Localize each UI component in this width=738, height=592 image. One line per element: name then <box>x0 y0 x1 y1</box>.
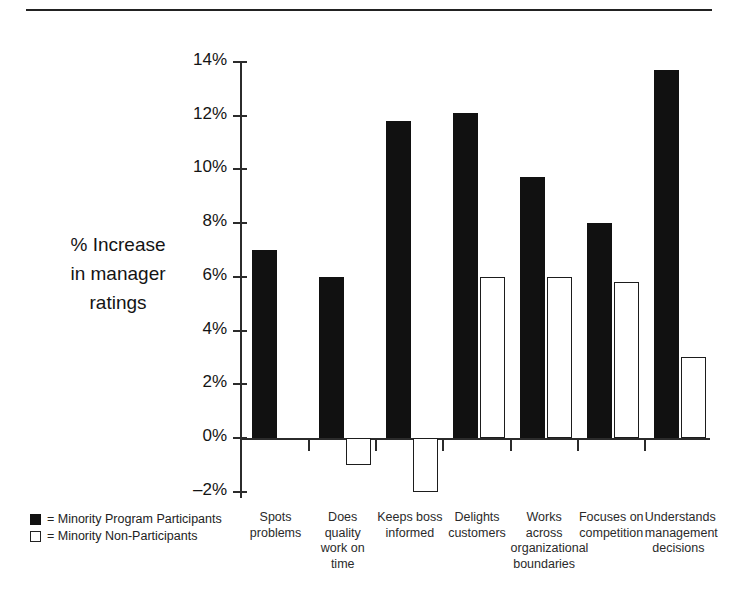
y-axis-tick: 0% <box>233 437 247 439</box>
chart-legend: = Minority Program Participants= Minorit… <box>30 511 222 545</box>
x-axis-category-label-line: decisions <box>645 541 712 557</box>
bar-non-participants <box>614 282 639 438</box>
x-axis-category-label-line: boundaries <box>511 557 578 573</box>
bar-participants <box>587 223 612 438</box>
x-axis-category-label-line: customers <box>443 526 510 542</box>
x-axis-category-label: Keeps bossinformed <box>376 510 443 541</box>
bar-participants <box>386 121 411 438</box>
bar-participants <box>520 177 545 438</box>
x-axis-tick <box>442 440 444 451</box>
y-axis-tick: –2% <box>233 491 247 493</box>
x-axis-category-label: Delightscustomers <box>443 510 510 541</box>
y-axis-tick-mark <box>233 222 247 224</box>
legend-item: = Minority Non-Participants <box>30 528 222 545</box>
legend-label: = Minority Non-Participants <box>47 528 197 545</box>
x-axis-category-label-line: Does quality <box>309 510 376 541</box>
x-axis-tick <box>510 440 512 451</box>
y-axis-tick-label: 6% <box>202 265 227 285</box>
y-axis-tick-label: 8% <box>202 211 227 231</box>
y-axis-tick: 14% <box>233 61 247 63</box>
x-axis-tick <box>577 440 579 451</box>
x-axis-category-label-line: organizational <box>511 541 578 557</box>
legend-swatch-hollow-icon <box>30 531 41 542</box>
y-axis-tick-mark <box>233 491 247 493</box>
x-axis-category-label-line: work on time <box>309 541 376 572</box>
x-axis-category-label-line: Works across <box>511 510 578 541</box>
x-axis-category-label-line: competition <box>578 526 645 542</box>
y-axis-tick-label: 14% <box>193 50 227 70</box>
x-axis-category-label: Spotsproblems <box>242 510 309 541</box>
bar-non-participants <box>413 438 438 492</box>
x-axis-category-label: Understandsmanagementdecisions <box>645 510 712 557</box>
y-axis-tick-mark <box>233 115 247 117</box>
y-axis-tick: 8% <box>233 222 247 224</box>
y-axis-title: % Increase in manager ratings <box>34 230 202 317</box>
x-axis-category-label-line: Focuses on <box>578 510 645 526</box>
x-axis-tick <box>644 440 646 451</box>
legend-swatch-filled-icon <box>30 514 41 525</box>
x-axis-category-label-line: Keeps boss <box>376 510 443 526</box>
y-axis-line <box>240 62 242 498</box>
y-axis-title-line-2: in manager <box>34 259 202 288</box>
x-axis-category-label-line: Delights <box>443 510 510 526</box>
y-axis-tick: 6% <box>233 276 247 278</box>
y-axis-tick-label: 0% <box>202 426 227 446</box>
bar-participants <box>453 113 478 438</box>
y-axis-tick: 12% <box>233 115 247 117</box>
x-axis-category-label-line: Spots <box>242 510 309 526</box>
y-axis-tick-label: 12% <box>193 104 227 124</box>
x-axis-tick <box>375 440 377 451</box>
x-axis-category-label: Focuses oncompetition <box>578 510 645 541</box>
x-axis-category-label: Works acrossorganizationalboundaries <box>511 510 578 572</box>
bar-participants <box>319 277 344 438</box>
y-axis-tick: 2% <box>233 383 247 385</box>
x-axis-category-label: Does qualitywork on time <box>309 510 376 572</box>
y-axis-tick-label: 2% <box>202 372 227 392</box>
y-axis-tick-mark <box>233 168 247 170</box>
x-axis-category-label-line: management <box>645 526 712 542</box>
y-axis-title-line-1: % Increase <box>34 230 202 259</box>
y-axis-tick-mark <box>233 61 247 63</box>
y-axis-tick: 4% <box>233 330 247 332</box>
bar-non-participants <box>480 277 505 438</box>
bar-non-participants <box>681 357 706 438</box>
bar-non-participants <box>346 438 371 465</box>
bar-participants <box>252 250 277 438</box>
bar-non-participants <box>547 277 572 438</box>
y-axis-tick-label: 4% <box>202 319 227 339</box>
bar-participants <box>654 70 679 438</box>
y-axis-tick: 10% <box>233 168 247 170</box>
x-axis-tick <box>308 440 310 451</box>
y-axis-tick-mark <box>233 276 247 278</box>
x-axis-category-label-line: problems <box>242 526 309 542</box>
y-axis-tick-label: 10% <box>193 157 227 177</box>
y-axis-tick-mark <box>233 437 247 439</box>
y-axis-tick-mark <box>233 383 247 385</box>
y-axis-title-line-3: ratings <box>34 288 202 317</box>
legend-label: = Minority Program Participants <box>47 511 222 528</box>
y-axis-tick-mark <box>233 330 247 332</box>
x-axis-category-label-line: informed <box>376 526 443 542</box>
page-top-rule <box>26 9 712 11</box>
zero-baseline <box>240 438 710 440</box>
legend-item: = Minority Program Participants <box>30 511 222 528</box>
x-axis-category-label-line: Understands <box>645 510 712 526</box>
bar-chart-plot-area: 14%12%10%8%6%4%2%0%–2% SpotsproblemsDoes… <box>206 52 712 504</box>
y-axis-tick-label: –2% <box>193 480 227 500</box>
